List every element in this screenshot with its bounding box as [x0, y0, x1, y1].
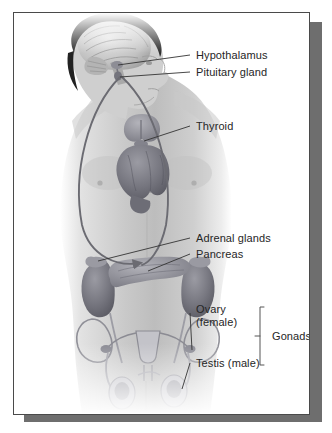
label-pancreas: Pancreas	[196, 248, 243, 261]
label-gonads: Gonads	[272, 330, 310, 343]
label-testis-male: Testis (male)	[196, 357, 260, 370]
plate-inner: Hypothalamus Pituitary gland Thyroid Adr…	[14, 13, 309, 414]
label-layer: Hypothalamus Pituitary gland Thyroid Adr…	[14, 13, 310, 415]
label-adrenal-glands: Adrenal glands	[196, 232, 271, 245]
label-ovary-female: Ovary (female)	[196, 303, 237, 329]
figure-plate: Hypothalamus Pituitary gland Thyroid Adr…	[13, 12, 310, 415]
label-thyroid: Thyroid	[196, 120, 233, 133]
label-hypothalamus: Hypothalamus	[196, 49, 268, 62]
endocrine-system-figure: Hypothalamus Pituitary gland Thyroid Adr…	[0, 0, 332, 433]
label-pituitary-gland: Pituitary gland	[196, 66, 267, 79]
